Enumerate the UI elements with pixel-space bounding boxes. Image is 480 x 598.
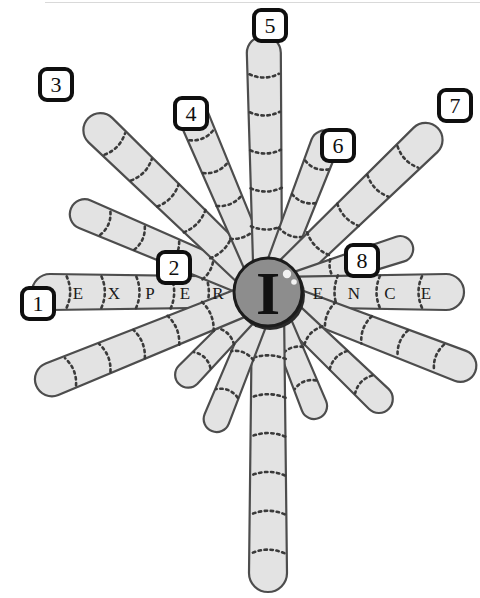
callout-box-7[interactable]: 7: [437, 88, 473, 123]
petal-letter-right-0: E: [313, 284, 323, 303]
callout-box-2[interactable]: 2: [156, 250, 192, 285]
figure-canvas: I EXPERENCE 12345678: [0, 0, 480, 598]
petal-letter-right-3: E: [421, 284, 431, 303]
callout-box-1[interactable]: 1: [20, 286, 56, 321]
petal-letter-left-2: P: [145, 284, 154, 303]
callout-label-6: 6: [333, 135, 344, 157]
callout-label-8: 8: [357, 250, 368, 272]
callout-label-3: 3: [51, 74, 62, 96]
callout-box-6[interactable]: 6: [320, 128, 356, 163]
callout-box-3[interactable]: 3: [38, 67, 74, 102]
callout-label-4: 4: [186, 103, 197, 125]
callout-box-8[interactable]: 8: [344, 243, 380, 278]
core-highlight-dot-1: [291, 279, 297, 285]
callout-box-5[interactable]: 5: [252, 8, 288, 43]
petal-letter-left-1: X: [108, 284, 120, 303]
petal-letter-right-2: C: [384, 284, 395, 303]
callout-label-1: 1: [33, 293, 44, 315]
petal-letter-left-3: E: [180, 284, 190, 303]
callout-label-7: 7: [450, 95, 461, 117]
petal-letter-left-4: R: [212, 284, 224, 303]
petal-letter-left-0: E: [73, 284, 83, 303]
center-letter: I: [256, 259, 280, 327]
callout-box-4[interactable]: 4: [173, 96, 209, 131]
petal-letter-right-1: N: [348, 284, 360, 303]
core-highlight-dot-0: [283, 270, 291, 278]
callout-label-5: 5: [265, 15, 276, 37]
callout-label-2: 2: [169, 257, 180, 279]
